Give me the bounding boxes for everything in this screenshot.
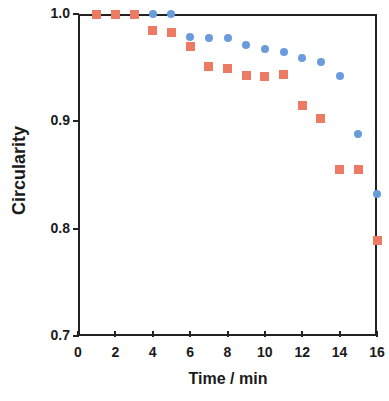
y-axis-tick-label: 0.8 xyxy=(34,220,70,236)
x-axis-tick xyxy=(114,331,116,337)
data-point-red-series xyxy=(373,236,382,245)
data-point-blue-series xyxy=(280,48,288,56)
y-axis-title: Circularity xyxy=(0,0,40,340)
x-axis-tick xyxy=(339,331,341,337)
data-point-red-series xyxy=(354,165,363,174)
y-axis-tick-label: 0.7 xyxy=(34,327,70,343)
x-axis-tick-label: 12 xyxy=(287,344,317,360)
data-point-blue-series xyxy=(373,190,381,198)
data-point-red-series xyxy=(186,42,195,51)
y-axis-tick-label: 0.9 xyxy=(34,112,70,128)
data-point-red-series xyxy=(279,70,288,79)
data-point-red-series xyxy=(298,101,307,110)
x-axis-tick-label: 0 xyxy=(63,344,93,360)
data-point-red-series xyxy=(148,26,157,35)
x-axis-tick-label: 8 xyxy=(213,344,243,360)
data-point-blue-series xyxy=(205,34,213,42)
x-axis-tick-label: 4 xyxy=(138,344,168,360)
x-axis-tick xyxy=(376,331,378,337)
data-point-red-series xyxy=(223,64,232,73)
x-axis-tick-label: 6 xyxy=(175,344,205,360)
x-axis-tick-label: 2 xyxy=(100,344,130,360)
x-axis-tick-label: 16 xyxy=(362,344,389,360)
data-point-red-series xyxy=(111,10,120,19)
data-point-red-series xyxy=(130,10,139,19)
data-point-red-series xyxy=(260,72,269,81)
data-point-blue-series xyxy=(186,33,194,41)
x-axis-tick xyxy=(264,331,266,337)
x-axis-tick-label: 14 xyxy=(325,344,355,360)
x-axis-tick xyxy=(301,331,303,337)
x-axis-tick xyxy=(227,331,229,337)
x-axis-tick-label: 10 xyxy=(250,344,280,360)
data-point-red-series xyxy=(167,28,176,37)
y-axis-tick xyxy=(73,13,79,15)
y-axis-tick xyxy=(73,228,79,230)
data-point-blue-series xyxy=(149,10,157,18)
data-point-red-series xyxy=(242,71,251,80)
scatter-chart-figure: Circularity Time / min 0.70.80.91.002468… xyxy=(0,0,389,401)
data-point-red-series xyxy=(316,114,325,123)
plot-area xyxy=(78,14,377,336)
data-point-blue-series xyxy=(224,34,232,42)
x-axis-tick xyxy=(77,331,79,337)
y-axis-tick xyxy=(73,120,79,122)
data-point-blue-series xyxy=(336,72,344,80)
x-axis-tick xyxy=(152,331,154,337)
data-point-red-series xyxy=(92,10,101,19)
y-axis-tick-label: 1.0 xyxy=(34,5,70,21)
data-point-red-series xyxy=(204,62,213,71)
x-axis-tick xyxy=(189,331,191,337)
data-point-red-series xyxy=(335,165,344,174)
y-axis-title-text: Circularity xyxy=(10,125,31,214)
x-axis-title: Time / min xyxy=(78,370,378,388)
